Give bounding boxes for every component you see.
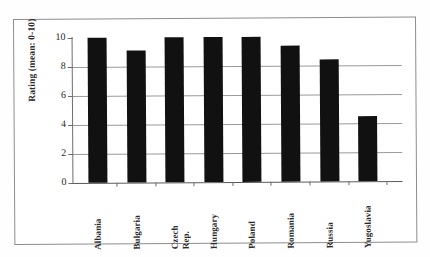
y-axis-title: Rating (mean: 0-10) bbox=[26, 0, 37, 120]
x-label-russia: Russia bbox=[324, 222, 334, 248]
y-tick-label-0: 0 bbox=[44, 177, 66, 187]
y-tick-mark-6 bbox=[68, 96, 73, 97]
y-tick-label-6: 6 bbox=[44, 90, 66, 100]
bar-russia bbox=[319, 59, 339, 181]
chart-plot-area: Rating (mean: 0-10) 10 8 6 4 2 0 Albania… bbox=[0, 0, 430, 257]
x-label-bulgaria: Bulgaria bbox=[131, 215, 141, 249]
chart-page: Rating (mean: 0-10) 10 8 6 4 2 0 Albania… bbox=[0, 0, 430, 257]
x-label-albania: Albania bbox=[93, 219, 103, 250]
y-tick-label-4: 4 bbox=[44, 119, 66, 129]
x-tick-mark-4 bbox=[271, 182, 272, 186]
bar-czech-rep bbox=[165, 37, 185, 182]
x-label-yugoslavia: Yugoslavia bbox=[363, 205, 373, 248]
bar-albania bbox=[88, 38, 108, 183]
x-label-romania: Romania bbox=[286, 213, 296, 249]
y-axis-tick-labels: 10 8 6 4 2 0 bbox=[43, 0, 66, 200]
bar-yugoslavia bbox=[358, 116, 377, 181]
x-label-poland: Poland bbox=[247, 221, 257, 249]
x-tick-mark-1 bbox=[155, 182, 156, 186]
gridline-6 bbox=[72, 94, 402, 97]
x-label-czech-rep-line2: Rep. bbox=[181, 231, 191, 249]
x-tick-mark-2 bbox=[194, 182, 195, 186]
gridline-0-baseline bbox=[72, 181, 402, 184]
y-tick-mark-0 bbox=[68, 183, 73, 184]
gridline-2 bbox=[72, 152, 402, 155]
bar-romania bbox=[281, 45, 301, 181]
x-tick-mark-7 bbox=[387, 181, 388, 185]
gridline-4 bbox=[72, 123, 402, 126]
bar-bulgaria bbox=[126, 51, 146, 183]
y-tick-mark-10 bbox=[68, 38, 73, 39]
y-tick-label-8: 8 bbox=[44, 61, 66, 71]
x-tick-mark-6 bbox=[348, 181, 349, 185]
gridlines bbox=[71, 0, 402, 200]
x-label-czech-rep-line1: Czech bbox=[170, 225, 180, 249]
x-label-hungary: Hungary bbox=[208, 214, 218, 249]
x-tick-mark-5 bbox=[309, 181, 310, 185]
bar-poland bbox=[242, 37, 262, 182]
y-tick-mark-8 bbox=[68, 67, 73, 68]
y-tick-label-10: 10 bbox=[44, 32, 66, 42]
y-tick-label-2: 2 bbox=[44, 148, 66, 158]
gridline-8 bbox=[72, 65, 402, 68]
bar-hungary bbox=[203, 37, 223, 182]
y-tick-mark-2 bbox=[68, 154, 73, 155]
y-tick-mark-4 bbox=[68, 125, 73, 126]
x-tick-mark-3 bbox=[232, 182, 233, 186]
x-tick-mark-0 bbox=[116, 183, 117, 187]
